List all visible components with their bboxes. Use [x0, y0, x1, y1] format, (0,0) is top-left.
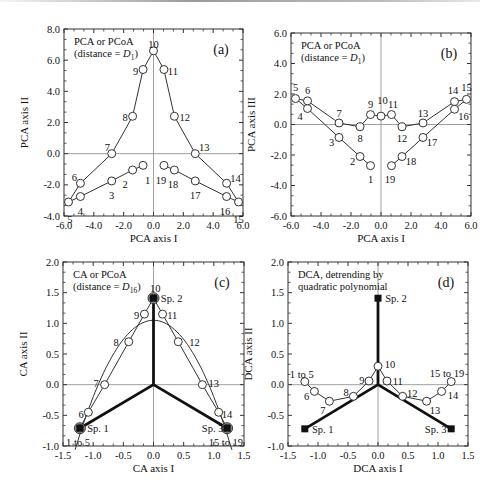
panel-letter: (d)	[438, 275, 455, 291]
x-tick-label: -1.5	[280, 450, 297, 461]
x-tick-label: -6.0	[283, 220, 300, 231]
x-tick-label: -1.0	[85, 450, 102, 461]
site-point	[84, 408, 92, 416]
panel-title-line: (distance = D1)	[74, 48, 138, 62]
x-tick-label: 2.0	[404, 220, 417, 231]
site-label: 15	[233, 214, 244, 225]
site-label: 11	[168, 66, 178, 77]
site-point	[398, 123, 406, 131]
y-tick-label: -2.0	[270, 150, 287, 161]
site-label: 19	[385, 174, 396, 185]
species-marker	[150, 295, 157, 302]
site-point	[304, 97, 312, 105]
species-marker	[76, 425, 83, 432]
site-label: 14	[448, 85, 459, 96]
site-point	[139, 66, 147, 74]
site-label: 4	[297, 111, 303, 122]
site-label: 5	[293, 82, 298, 93]
site-point	[367, 162, 375, 170]
y-axis-label: CA axis II	[17, 331, 29, 377]
site-label: 16	[220, 206, 231, 217]
y-tick-label: -0.5	[267, 410, 284, 421]
site-point	[377, 112, 385, 120]
site-label: 14	[448, 390, 459, 401]
x-tick-label: -1.0	[310, 450, 327, 461]
x-tick-label: 0.0	[147, 220, 160, 231]
y-tick-label: 1.0	[271, 318, 284, 329]
site-label: 7	[105, 142, 110, 153]
site-label: 10	[385, 359, 396, 370]
y-tick-label: 4.0	[47, 86, 60, 97]
site-point	[383, 377, 391, 385]
site-label: 1	[145, 175, 150, 186]
y-tick-label: 8.0	[47, 24, 60, 35]
panel-b-pca-axis-i-iii: -6.0-4.0-2.00.02.04.06.0-6.0-4.0-2.00.02…	[245, 28, 478, 245]
site-point	[304, 104, 312, 112]
site-point	[160, 66, 168, 74]
y-tick-label: -1.0	[267, 441, 284, 452]
y-tick-label: 0.0	[46, 379, 59, 390]
site-point	[139, 161, 147, 169]
site-label: 12	[397, 133, 408, 144]
x-tick-label: 1.5	[237, 450, 250, 461]
y-tick-label: 2.0	[271, 257, 284, 268]
site-label: 11	[167, 310, 177, 321]
site-label: 17	[190, 190, 201, 201]
y-tick-label: 0.0	[271, 379, 284, 390]
species-label: Sp. 3	[425, 424, 447, 435]
site-label: 14	[222, 409, 233, 420]
site-point	[129, 112, 137, 120]
site-label: 8	[123, 112, 128, 123]
species-marker	[301, 425, 308, 432]
x-tick-label: 4.0	[207, 220, 220, 231]
site-point	[451, 98, 459, 106]
site-point	[419, 119, 427, 127]
site-point	[170, 112, 178, 120]
y-tick-label: -6.0	[270, 211, 287, 222]
site-label: 10	[377, 95, 388, 106]
site-label: 16	[458, 111, 469, 122]
site-point	[399, 392, 407, 400]
x-tick-label: -2.0	[343, 220, 360, 231]
panel-a-pca-axis-i-ii: -6.0-4.0-2.00.02.04.06.0-4.0-2.00.02.04.…	[18, 24, 250, 245]
y-tick-label: 6.0	[274, 28, 287, 39]
site-label: 1 to 5	[66, 437, 90, 448]
x-tick-label: 0.5	[401, 450, 414, 461]
y-tick-label: 1.5	[271, 287, 284, 298]
site-point	[292, 95, 300, 103]
y-tick-label: -4.0	[43, 211, 60, 222]
y-tick-label: 0.5	[46, 349, 59, 360]
site-label: 8	[357, 133, 362, 144]
site-label: 2	[123, 179, 128, 190]
x-axis-label: PCA axis I	[130, 232, 178, 244]
x-tick-label: 0.0	[147, 450, 160, 461]
y-tick-label: 2.0	[46, 257, 59, 268]
site-point	[198, 381, 206, 389]
x-tick-label: 2.0	[177, 220, 190, 231]
site-label: 3	[329, 137, 334, 148]
site-label: 8	[344, 387, 349, 398]
site-point	[374, 362, 382, 370]
site-point	[76, 193, 84, 201]
panel-letter: (b)	[441, 46, 458, 62]
x-tick-label: -4.0	[86, 220, 103, 231]
panel-title-line: (distance = D1)	[301, 52, 365, 66]
y-axis-label: PCA axis II	[18, 96, 30, 148]
site-label: 18	[168, 179, 179, 190]
panel-title-line: CA or PCoA	[73, 269, 127, 280]
y-tick-label: 1.5	[46, 287, 59, 298]
site-point	[174, 338, 182, 346]
x-tick-label: 1.0	[207, 450, 220, 461]
panel-title-line: PCA or PCoA	[301, 40, 361, 51]
y-axis-label: PCA axis III	[245, 97, 257, 152]
site-label: 13	[209, 378, 220, 389]
x-axis-label: DCA axis I	[353, 462, 403, 474]
site-label: 7	[94, 378, 99, 389]
x-tick-label: -4.0	[313, 220, 330, 231]
site-point	[325, 397, 333, 405]
site-point	[129, 166, 137, 174]
species-label: Sp. 2	[161, 293, 183, 304]
site-label: 13	[418, 108, 429, 119]
site-label: 17	[427, 137, 438, 148]
y-tick-label: 2.0	[47, 117, 60, 128]
